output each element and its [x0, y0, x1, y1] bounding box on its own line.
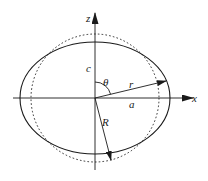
sphere-radius-label: R	[101, 116, 109, 128]
semi-major-label: a	[129, 98, 135, 110]
angle-label: θ	[103, 76, 109, 88]
R-vector	[95, 98, 111, 160]
semi-minor-label: c	[86, 62, 91, 74]
radius-vector-label: r	[129, 78, 134, 90]
spheroid-diagram: z x c θ r a R	[0, 0, 208, 181]
z-axis-label: z	[85, 12, 91, 24]
x-axis-label: x	[191, 92, 197, 104]
